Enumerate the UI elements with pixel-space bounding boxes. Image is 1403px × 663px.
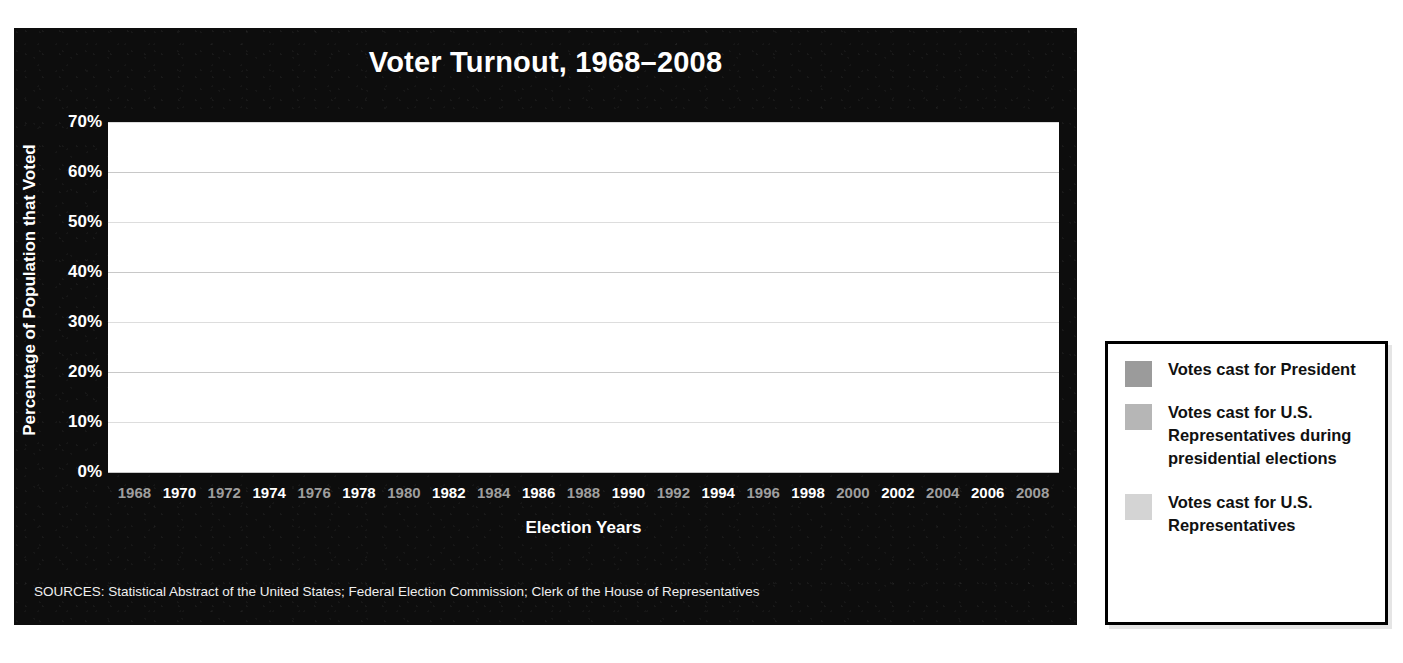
bar-2004[interactable] bbox=[920, 122, 965, 472]
y-tick-40: 40% bbox=[42, 262, 102, 282]
page-root: Voter Turnout, 1968–2008 Percentage of P… bbox=[0, 0, 1403, 663]
bar-2006[interactable] bbox=[965, 122, 1010, 472]
bar-1978[interactable] bbox=[337, 122, 382, 472]
bar-1984[interactable] bbox=[471, 122, 516, 472]
x-tick-1996: 1996 bbox=[741, 480, 786, 506]
bar-1988[interactable] bbox=[561, 122, 606, 472]
legend-items: Votes cast for PresidentVotes cast for U… bbox=[1125, 358, 1375, 614]
legend-swatch-president bbox=[1125, 361, 1152, 387]
bar-1986[interactable] bbox=[516, 122, 561, 472]
bar-1980[interactable] bbox=[381, 122, 426, 472]
legend-swatch-house-presidential bbox=[1125, 404, 1152, 430]
x-tick-1980: 1980 bbox=[381, 480, 426, 506]
bar-1968[interactable] bbox=[112, 122, 157, 472]
x-tick-1978: 1978 bbox=[337, 480, 382, 506]
plot-area bbox=[108, 122, 1059, 472]
bar-series bbox=[108, 122, 1059, 472]
x-tick-1968: 1968 bbox=[112, 480, 157, 506]
chart-panel: Voter Turnout, 1968–2008 Percentage of P… bbox=[14, 28, 1077, 625]
x-tick-1976: 1976 bbox=[292, 480, 337, 506]
sources-note: SOURCES: Statistical Abstract of the Uni… bbox=[34, 584, 1061, 599]
x-tick-1984: 1984 bbox=[471, 480, 516, 506]
legend-item[interactable]: Votes cast for President bbox=[1125, 358, 1375, 387]
x-tick-1974: 1974 bbox=[247, 480, 292, 506]
x-tick-1970: 1970 bbox=[157, 480, 202, 506]
y-tick-60: 60% bbox=[42, 162, 102, 182]
y-tick-70: 70% bbox=[42, 112, 102, 132]
x-tick-2004: 2004 bbox=[920, 480, 965, 506]
y-axis-tick-labels: 70%60%50%40%30%20%10%0% bbox=[42, 122, 102, 472]
y-tick-30: 30% bbox=[42, 312, 102, 332]
x-tick-2002: 2002 bbox=[875, 480, 920, 506]
legend-item[interactable]: Votes cast for U.S. Representatives duri… bbox=[1125, 401, 1375, 469]
chart-title: Voter Turnout, 1968–2008 bbox=[14, 46, 1077, 79]
x-axis-tick-labels: 1968197019721974197619781980198219841986… bbox=[108, 480, 1059, 506]
y-tick-10: 10% bbox=[42, 412, 102, 432]
x-tick-1992: 1992 bbox=[651, 480, 696, 506]
legend-label: Votes cast for U.S. Representatives duri… bbox=[1168, 401, 1364, 469]
bar-1998[interactable] bbox=[786, 122, 831, 472]
x-tick-2000: 2000 bbox=[831, 480, 876, 506]
y-tick-50: 50% bbox=[42, 212, 102, 232]
bar-2002[interactable] bbox=[875, 122, 920, 472]
legend-label: Votes cast for U.S. Representatives bbox=[1168, 491, 1364, 537]
bar-1994[interactable] bbox=[696, 122, 741, 472]
bar-1996[interactable] bbox=[741, 122, 786, 472]
bar-1976[interactable] bbox=[292, 122, 337, 472]
bar-1990[interactable] bbox=[606, 122, 651, 472]
bar-2000[interactable] bbox=[831, 122, 876, 472]
x-tick-1994: 1994 bbox=[696, 480, 741, 506]
bar-1982[interactable] bbox=[426, 122, 471, 472]
x-tick-2008: 2008 bbox=[1010, 480, 1055, 506]
y-tick-20: 20% bbox=[42, 362, 102, 382]
x-axis-title: Election Years bbox=[108, 518, 1059, 538]
bar-1992[interactable] bbox=[651, 122, 696, 472]
legend-box: Votes cast for PresidentVotes cast for U… bbox=[1105, 341, 1388, 625]
bar-1974[interactable] bbox=[247, 122, 292, 472]
legend-label: Votes cast for President bbox=[1168, 358, 1356, 381]
x-tick-1972: 1972 bbox=[202, 480, 247, 506]
y-axis-title: Percentage of Population that Voted bbox=[20, 0, 40, 120]
gridline bbox=[108, 472, 1059, 473]
legend-swatch-house bbox=[1125, 494, 1152, 520]
legend-item[interactable]: Votes cast for U.S. Representatives bbox=[1125, 491, 1375, 537]
y-tick-0: 0% bbox=[42, 462, 102, 482]
x-tick-1990: 1990 bbox=[606, 480, 651, 506]
bar-1970[interactable] bbox=[157, 122, 202, 472]
x-tick-2006: 2006 bbox=[965, 480, 1010, 506]
x-tick-1988: 1988 bbox=[561, 480, 606, 506]
y-axis-title-text: Percentage of Population that Voted bbox=[20, 120, 40, 460]
x-tick-1986: 1986 bbox=[516, 480, 561, 506]
x-tick-1998: 1998 bbox=[786, 480, 831, 506]
bar-1972[interactable] bbox=[202, 122, 247, 472]
x-tick-1982: 1982 bbox=[426, 480, 471, 506]
bar-2008[interactable] bbox=[1010, 122, 1055, 472]
